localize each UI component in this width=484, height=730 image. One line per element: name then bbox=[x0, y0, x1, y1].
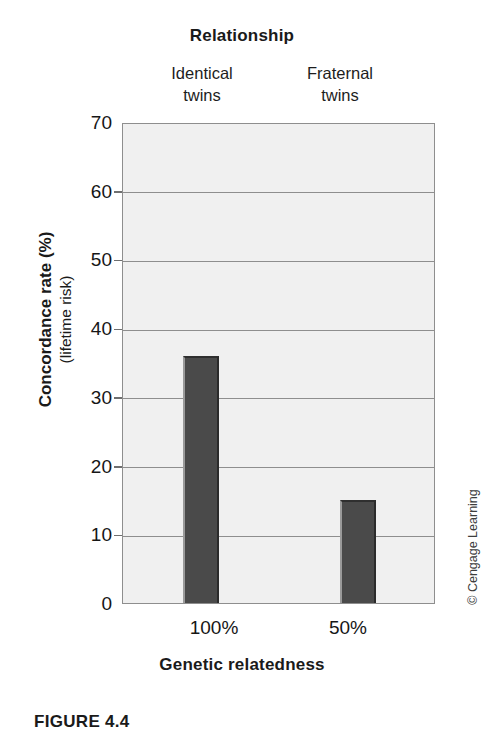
y-tick-mark-20 bbox=[114, 466, 122, 468]
plot-area bbox=[122, 123, 435, 604]
figure-caption: FIGURE 4.4 bbox=[34, 712, 130, 730]
gridline-30 bbox=[123, 398, 434, 399]
y-axis-title-main: Concordance rate (%) bbox=[36, 170, 56, 470]
gridline-20 bbox=[123, 467, 434, 468]
y-tick-label-0: 0 bbox=[58, 594, 112, 613]
x-axis-title: Genetic relatedness bbox=[0, 655, 484, 675]
copyright-credit: © Cengage Learning bbox=[466, 467, 480, 627]
gridline-50 bbox=[123, 261, 434, 262]
group-header-line1: Identical bbox=[171, 64, 232, 82]
gridline-60 bbox=[123, 192, 434, 193]
y-axis-title-sub: (lifetime risk) bbox=[56, 170, 75, 470]
group-header-identical-twins: Identical twins bbox=[142, 62, 262, 106]
group-header-fraternal-twins: Fraternal twins bbox=[280, 62, 400, 106]
y-tick-mark-10 bbox=[114, 535, 122, 537]
chart-title: Relationship bbox=[0, 26, 484, 46]
gridline-10 bbox=[123, 536, 434, 537]
y-tick-label-70: 70 bbox=[58, 113, 112, 132]
group-header-line2: twins bbox=[280, 84, 400, 106]
bar-50% bbox=[340, 500, 376, 603]
x-tick-label-50: 50% bbox=[288, 617, 408, 639]
x-tick-label-100: 100% bbox=[154, 617, 274, 639]
y-tick-label-10: 10 bbox=[58, 525, 112, 544]
y-tick-mark-50 bbox=[114, 260, 122, 262]
group-header-line1: Fraternal bbox=[307, 64, 373, 82]
y-axis-title: Concordance rate (%) (lifetime risk) bbox=[36, 170, 75, 470]
y-tick-mark-60 bbox=[114, 191, 122, 193]
y-tick-mark-30 bbox=[114, 397, 122, 399]
y-tick-mark-40 bbox=[114, 329, 122, 331]
bar-100% bbox=[183, 356, 219, 603]
gridline-40 bbox=[123, 330, 434, 331]
group-header-line2: twins bbox=[142, 84, 262, 106]
